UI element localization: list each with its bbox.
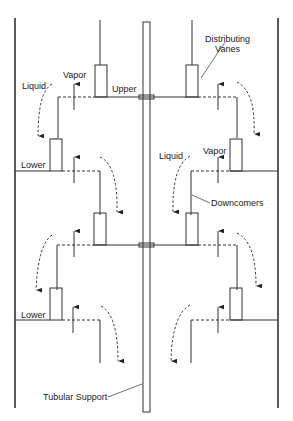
- vane-lower-2-right: [230, 288, 242, 320]
- tray-column-diagram: [0, 0, 293, 421]
- label-distributing: Distributing: [205, 34, 250, 44]
- vane-lower-2-left: [50, 288, 62, 320]
- label-vapor-1: Vapor: [63, 70, 86, 80]
- label-tubular-support: Tubular Support: [43, 392, 107, 402]
- label-lower-2: Lower: [21, 310, 46, 320]
- distributing-vane-left: [95, 65, 107, 97]
- vane-lower-1-right: [230, 139, 242, 171]
- label-lower-1: Lower: [21, 160, 46, 170]
- distributing-vane-right: [186, 65, 198, 97]
- vane-lower-1-left: [50, 139, 62, 171]
- label-vanes: Vanes: [205, 44, 250, 54]
- label-liquid-2: Liquid: [159, 151, 183, 161]
- liquid-arrows: [36, 82, 256, 361]
- label-downcomers: Downcomers: [211, 198, 264, 208]
- vapor-arrows: [73, 84, 218, 333]
- tubular-support: [143, 22, 150, 412]
- label-distributing-vanes: Distributing Vanes: [205, 34, 250, 54]
- vane-upper-2-right: [186, 213, 198, 245]
- vane-upper-2-left: [94, 213, 106, 245]
- label-vapor-2: Vapor: [203, 146, 226, 156]
- label-upper-1: Upper: [112, 84, 137, 94]
- label-liquid-1: Liquid: [22, 81, 46, 91]
